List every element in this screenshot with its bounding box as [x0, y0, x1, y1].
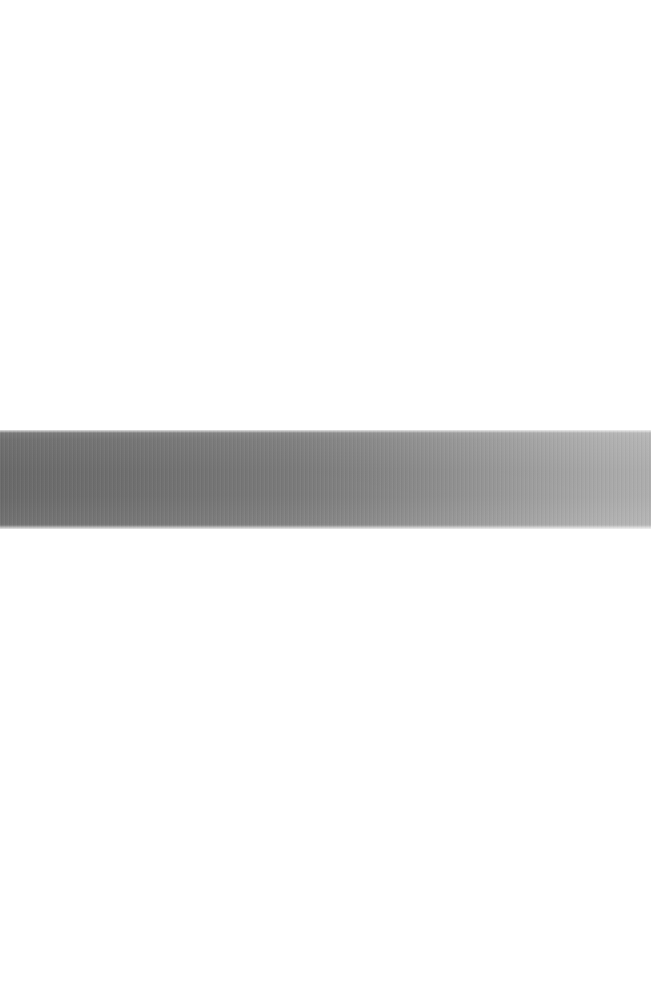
document-page — [0, 0, 651, 981]
gray-band-scan-texture — [0, 430, 651, 529]
blank-region-lower — [0, 529, 651, 981]
gray-band — [0, 430, 651, 529]
blank-region-upper — [0, 0, 651, 430]
gray-band-vertical-shading — [0, 430, 651, 529]
